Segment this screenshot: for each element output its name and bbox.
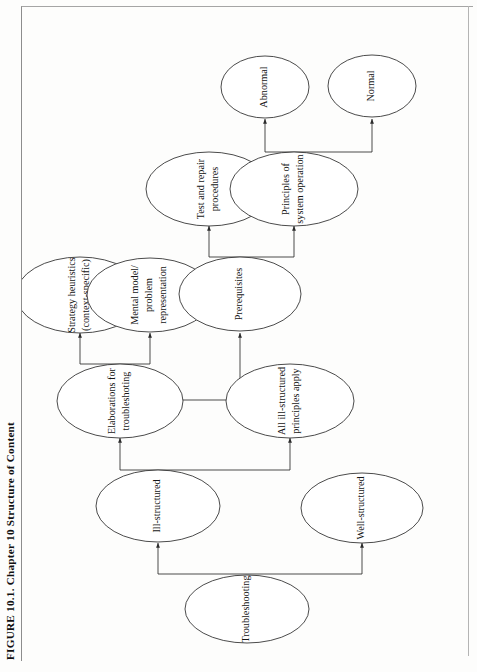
node-abnormal-label-0: Abnormal bbox=[258, 66, 269, 107]
node-mental-model-label-2: representation bbox=[157, 266, 168, 324]
node-all-ill-structured[interactable]: All ill-structured principles apply bbox=[226, 364, 354, 438]
edge-troubleshooting-well-structured bbox=[247, 543, 362, 574]
node-prerequisites-label-0: Prerequisites bbox=[233, 268, 244, 321]
node-normal-label-0: Normal bbox=[365, 70, 376, 101]
node-normal[interactable]: Normal bbox=[328, 55, 416, 117]
tree-diagram-svg: Troubleshooting Ill-structured Well-stru… bbox=[22, 7, 472, 660]
node-strategy-heuristics-label-0: Strategy heuristics bbox=[66, 257, 77, 333]
node-well-structured-label-0: Well-structured bbox=[355, 476, 366, 539]
node-principles[interactable]: Principles of system operation bbox=[230, 152, 358, 226]
node-elaborations[interactable]: Elaborations for troubleshoting bbox=[57, 364, 183, 438]
edge-principles-normal bbox=[294, 119, 372, 152]
node-all-ill-structured-label-0: All ill-structured bbox=[276, 367, 287, 435]
node-ill-structured-label-0: Ill-structured bbox=[151, 479, 162, 532]
node-elaborations-label-1: troubleshoting bbox=[120, 372, 131, 431]
node-principles-label-1: system operation bbox=[294, 154, 305, 223]
node-mental-model-label-0: Mental model/ bbox=[129, 265, 140, 325]
figure-caption-area: FIGURE 10.1. Chapter 10 Structure of Con… bbox=[0, 0, 22, 672]
node-group: Troubleshooting Ill-structured Well-stru… bbox=[22, 55, 423, 643]
edge-troubleshooting-ill-structured bbox=[158, 543, 247, 574]
diagram-container: Troubleshooting Ill-structured Well-stru… bbox=[22, 7, 472, 660]
node-troubleshooting-label-0: Troubleshooting bbox=[240, 576, 251, 643]
node-principles-label-0: Principles of bbox=[280, 163, 291, 215]
edge-prerequisites-test-repair bbox=[209, 226, 240, 257]
figure-caption: FIGURE 10.1. Chapter 10 Structure of Con… bbox=[4, 422, 16, 660]
node-test-repair-label-1: procedures bbox=[209, 167, 220, 212]
edge-principles-abnormal bbox=[265, 119, 294, 152]
node-mental-model-label-1: problem bbox=[143, 278, 154, 312]
edge-elaborations-mental-model bbox=[120, 333, 150, 364]
edge-prerequisites-principles bbox=[240, 226, 294, 257]
node-abnormal[interactable]: Abnormal bbox=[221, 56, 309, 118]
diagram-canvas-rotated: Troubleshooting Ill-structured Well-stru… bbox=[22, 7, 472, 660]
node-all-ill-structured-label-1: principles apply bbox=[290, 367, 301, 433]
node-prerequisites[interactable]: Prerequisites bbox=[179, 257, 301, 331]
edge-ill-structured-all-ill-structured bbox=[158, 438, 290, 470]
node-ill-structured[interactable]: Ill-structured bbox=[96, 470, 220, 542]
book-page: FIGURE 10.1. Chapter 10 Structure of Con… bbox=[0, 0, 477, 672]
edge-elaborations-strategy-heuristics bbox=[80, 333, 120, 364]
node-well-structured[interactable]: Well-structured bbox=[301, 473, 423, 543]
edge-ill-structured-elaborations bbox=[120, 438, 158, 470]
node-troubleshooting[interactable]: Troubleshooting bbox=[185, 575, 309, 643]
node-test-repair-label-0: Test and repair bbox=[195, 158, 206, 219]
node-elaborations-label-0: Elaborations for bbox=[106, 367, 117, 434]
